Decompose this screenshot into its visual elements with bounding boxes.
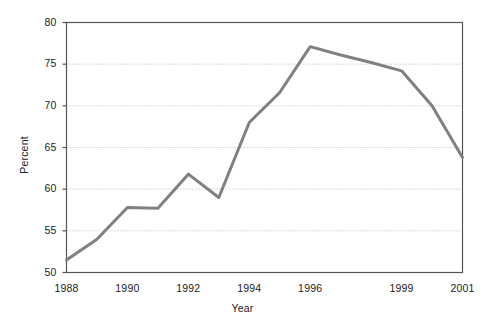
x-tick-label: 2001 <box>433 282 485 294</box>
x-tick-label: 1992 <box>158 282 218 294</box>
gridlines-group <box>67 64 463 231</box>
x-axis-label-text: Year <box>0 302 485 314</box>
x-tick-label: 1988 <box>37 282 97 294</box>
x-tick-label: 1999 <box>372 282 432 294</box>
chart-figure: Percent Year 50556065707580 198819901992… <box>0 0 485 329</box>
y-tick-label: 70 <box>27 99 57 111</box>
data-series-line <box>67 47 463 260</box>
y-tick-label: 60 <box>27 182 57 194</box>
x-tick-label: 1994 <box>219 282 279 294</box>
y-tick-label: 65 <box>27 141 57 153</box>
y-tick-label: 75 <box>27 57 57 69</box>
y-tick-label: 50 <box>27 266 57 278</box>
y-tick-label: 80 <box>27 16 57 28</box>
x-tick-label: 1996 <box>280 282 340 294</box>
x-tick-label: 1990 <box>97 282 157 294</box>
line-chart-canvas <box>0 0 485 329</box>
y-tick-label: 55 <box>27 224 57 236</box>
